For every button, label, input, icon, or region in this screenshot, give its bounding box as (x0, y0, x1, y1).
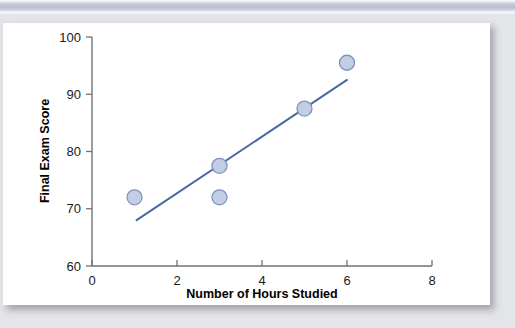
data-point (212, 158, 227, 173)
data-points-group (127, 55, 355, 205)
y-tick-label: 100 (59, 30, 81, 45)
x-axis-title: Number of Hours Studied (186, 287, 337, 301)
scanned-page-top-band (0, 0, 515, 11)
scatter-plot: 60708090100 02468 Number of Hours Studie… (3, 23, 490, 305)
y-tick-label: 90 (67, 87, 81, 102)
y-tick-label: 70 (67, 201, 81, 216)
x-tick-label: 0 (88, 273, 95, 288)
x-tick-label: 4 (258, 273, 265, 288)
data-point (340, 55, 355, 70)
x-tick-label: 2 (173, 273, 180, 288)
data-point (212, 190, 227, 205)
scanned-page-band-edge (0, 11, 515, 14)
x-axis-ticks: 02468 (88, 260, 435, 288)
x-tick-label: 8 (428, 273, 435, 288)
y-tick-label: 60 (67, 259, 81, 274)
data-point (297, 101, 312, 116)
axes-group (92, 37, 432, 266)
figure-card: 60708090100 02468 Number of Hours Studie… (3, 22, 490, 305)
y-tick-label: 80 (67, 144, 81, 159)
y-axis-ticks: 60708090100 (59, 30, 92, 274)
y-axis-title: Final Exam Score (38, 99, 52, 203)
data-point (127, 190, 142, 205)
regression-line (137, 80, 347, 220)
x-tick-label: 6 (343, 273, 350, 288)
